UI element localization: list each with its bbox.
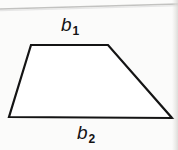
trapezoid-figure: b1 b2: [0, 0, 178, 150]
trapezoid-outline: [9, 45, 172, 118]
top-base-label-subscript: 1: [73, 24, 80, 38]
bottom-base-label-subscript: 2: [89, 132, 96, 146]
bottom-base-label: b2: [77, 123, 94, 142]
bottom-base-label-letter: b: [77, 122, 88, 143]
top-base-label: b1: [61, 15, 78, 34]
top-base-label-letter: b: [61, 14, 72, 35]
